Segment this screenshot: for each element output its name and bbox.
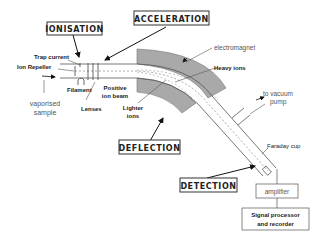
- to-vacuum-pump-label-2: pump: [270, 98, 287, 106]
- acceleration-label: ACCELERATION: [134, 15, 209, 24]
- ion-repeller-label: Ion Repeller: [17, 64, 52, 70]
- heavy-ions-label: Heavy ions: [214, 65, 246, 71]
- lighter-ions-label-2: ions: [127, 113, 140, 119]
- detection-label: DETECTION: [180, 182, 236, 191]
- positive-ion-beam-label-2: ion beam: [102, 93, 128, 99]
- faraday-cup-label: Faraday cup: [267, 143, 301, 149]
- filament: [78, 78, 84, 85]
- mass-spectrometer-diagram: IONISATION ACCELERATION DEFLECTION DETEC…: [0, 0, 318, 241]
- trap-current-label: Trap current: [34, 54, 69, 60]
- signal-processor-label-1: Signal processor: [251, 212, 300, 218]
- flight-tube: [60, 64, 276, 176]
- lighter-ions-label-1: Lighter: [123, 105, 144, 111]
- positive-ion-beam-label-1: Positive: [103, 85, 127, 91]
- lenses-label: Lenses: [81, 106, 102, 112]
- to-vacuum-pump-label-1: to vacuum: [263, 90, 293, 97]
- vaporised-sample-label-1: vaporised: [30, 100, 60, 108]
- filament-label: Filament: [67, 87, 92, 93]
- deflection-label: DEFLECTION: [119, 144, 181, 153]
- lenses: [88, 63, 98, 80]
- vaporised-sample-label-2: sample: [34, 109, 57, 117]
- amplifier-label: amplifier: [265, 188, 290, 196]
- ionisation-label: IONISATION: [45, 25, 104, 34]
- signal-processor-label-2: and recorder: [257, 221, 294, 227]
- faraday-cup: [262, 166, 271, 175]
- electromagnet-label: electromagnet: [214, 44, 255, 52]
